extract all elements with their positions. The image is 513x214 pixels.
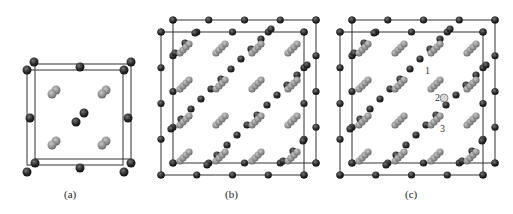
- panel-a: [23, 58, 136, 177]
- caption-a: (a): [64, 188, 76, 200]
- site-label-2: 2: [435, 92, 440, 103]
- site-label-3: 3: [440, 123, 445, 134]
- panel-b: [157, 16, 319, 178]
- panel-c: [336, 16, 498, 178]
- light-atoms: [48, 86, 111, 150]
- crystal-structure-figure: 1 2 3: [0, 0, 513, 214]
- caption-c: (c): [405, 188, 417, 200]
- site-label-1: 1: [425, 65, 430, 76]
- caption-b: (b): [225, 188, 238, 200]
